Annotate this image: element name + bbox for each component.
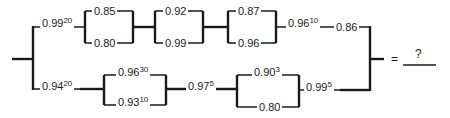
component-label: 0.9920 — [40, 17, 74, 31]
component-label: 0.975 — [186, 80, 216, 94]
component-label: 0.995 — [304, 81, 334, 95]
component-label: 0.80 — [257, 101, 282, 113]
component-label: 0.80 — [92, 37, 117, 49]
component-label: 0.9420 — [40, 80, 74, 94]
component-label: 0.9310 — [116, 96, 150, 110]
component-label: 0.9630 — [116, 66, 150, 80]
component-label: 0.9610 — [286, 17, 320, 31]
component-label: 0.86 — [334, 21, 359, 33]
answer-placeholder: ? — [415, 47, 422, 61]
component-label: 0.99 — [163, 37, 188, 49]
component-label: 0.92 — [163, 5, 188, 17]
component-label: 0.903 — [252, 66, 282, 80]
component-label: 0.85 — [92, 5, 117, 17]
component-label: 0.96 — [236, 37, 261, 49]
component-label: 0.87 — [236, 5, 261, 17]
equals-sign: = — [391, 52, 398, 66]
